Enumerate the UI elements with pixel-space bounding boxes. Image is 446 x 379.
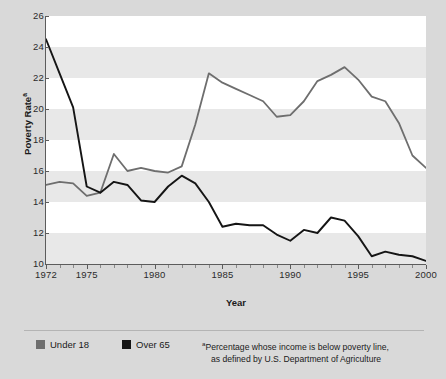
- y-axis-tick-mark: [45, 233, 49, 234]
- x-axis-tick-label: 1990: [270, 269, 310, 280]
- x-axis-tick-mark-minor: [385, 265, 386, 268]
- x-axis-tick-mark-minor: [114, 265, 115, 268]
- legend-label-under-18: Under 18: [50, 339, 89, 350]
- legend-item-under-18[interactable]: Under 18: [36, 339, 89, 350]
- x-axis-tick-mark-minor: [345, 265, 346, 268]
- y-axis-tick-label: 26: [14, 10, 44, 21]
- x-axis-tick-mark-minor: [331, 265, 332, 268]
- y-axis-tick-label: 14: [14, 196, 44, 207]
- y-axis-tick-label: 12: [14, 227, 44, 238]
- poverty-rate-line-chart: 262422201816141210 197219751980198519901…: [0, 0, 446, 379]
- legend-item-over-65[interactable]: Over 65: [122, 339, 170, 350]
- x-axis-tick-mark-minor: [236, 265, 237, 268]
- x-axis-tick-mark-minor: [168, 265, 169, 268]
- series-layer: [46, 16, 426, 264]
- y-axis-tick-mark: [45, 78, 49, 79]
- y-axis-tick-mark: [45, 16, 49, 17]
- footnote-line-2: as defined by U.S. Department of Agricul…: [202, 353, 446, 365]
- x-axis-tick-mark-minor: [412, 265, 413, 268]
- y-axis-ticks: 262422201816141210: [8, 0, 44, 379]
- x-axis-tick-mark-minor: [263, 265, 264, 268]
- x-axis-tick-mark-minor: [277, 265, 278, 268]
- x-axis-tick-mark-minor: [304, 265, 305, 268]
- x-axis-tick-mark-minor: [209, 265, 210, 268]
- legend-divider: [24, 330, 424, 331]
- y-axis-tick-mark: [45, 202, 49, 203]
- x-axis-tick-label: 1972: [26, 269, 66, 280]
- x-axis-tick-label: 1975: [67, 269, 107, 280]
- x-axis-tick-mark-minor: [372, 265, 373, 268]
- footnote: aPercentage whose income is below povert…: [202, 338, 446, 365]
- x-axis-tick-mark-minor: [250, 265, 251, 268]
- legend-label-over-65: Over 65: [136, 339, 170, 350]
- legend: Under 18 Over 65 aPercentage whose incom…: [36, 338, 436, 372]
- x-axis-tick-mark-minor: [141, 265, 142, 268]
- x-axis-tick-label: 1985: [202, 269, 242, 280]
- legend-swatch-over-65: [122, 340, 131, 349]
- legend-swatch-under-18: [36, 340, 45, 349]
- y-axis-title-superscript: a: [21, 93, 28, 97]
- x-axis-tick-label: 1995: [338, 269, 378, 280]
- y-axis-tick-mark: [45, 47, 49, 48]
- x-axis-tick-mark-minor: [100, 265, 101, 268]
- x-axis-tick-mark-minor: [195, 265, 196, 268]
- x-axis-tick-mark-minor: [60, 265, 61, 268]
- x-axis-tick-label: 2000: [406, 269, 446, 280]
- x-axis-tick-label: 1980: [135, 269, 175, 280]
- y-axis-tick-mark: [45, 140, 49, 141]
- y-axis-title-text: Poverty Rate: [22, 97, 33, 155]
- footnote-line-1: Percentage whose income is below poverty…: [205, 342, 388, 352]
- x-axis-tick-mark-minor: [73, 265, 74, 268]
- plot-region: [46, 16, 426, 264]
- line-series-over-65: [46, 39, 426, 261]
- plot-area: [46, 16, 426, 264]
- x-axis-tick-mark-minor: [317, 265, 318, 268]
- x-axis-tick-mark-minor: [127, 265, 128, 268]
- y-axis-tick-label: 24: [14, 41, 44, 52]
- y-axis-tick-mark: [45, 171, 49, 172]
- y-axis-tick-mark: [45, 109, 49, 110]
- y-axis-title: Poverty Ratea: [21, 76, 33, 172]
- x-axis-title: Year: [46, 297, 426, 308]
- line-series-under-18: [46, 67, 426, 196]
- y-axis-tick-label: 10: [14, 258, 44, 269]
- x-axis-tick-mark-minor: [399, 265, 400, 268]
- x-axis-tick-mark-minor: [182, 265, 183, 268]
